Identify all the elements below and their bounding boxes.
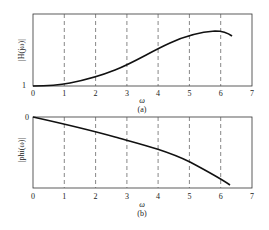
plot-b-curve bbox=[33, 117, 230, 185]
plot-a-xlabel: ω bbox=[139, 96, 145, 105]
plot-a-caption: (a) bbox=[138, 105, 147, 114]
svg-text:0: 0 bbox=[31, 89, 35, 98]
plot-b-gridlines bbox=[64, 117, 220, 188]
svg-text:0: 0 bbox=[31, 192, 35, 201]
svg-text:7: 7 bbox=[250, 89, 254, 98]
svg-text:7: 7 bbox=[250, 192, 254, 201]
plot-a-frame bbox=[33, 14, 252, 86]
plot-b-ylabel: |phi(ω)| bbox=[17, 138, 26, 162]
plot-b: 0 |phi(ω)| 0 1 2 3 4 5 6 7 ω (b) bbox=[17, 113, 254, 218]
svg-text:4: 4 bbox=[156, 89, 160, 98]
plot-a-gridlines bbox=[64, 14, 220, 86]
svg-text:5: 5 bbox=[187, 192, 191, 201]
plot-b-xlabel: ω bbox=[139, 200, 145, 209]
svg-text:1: 1 bbox=[62, 192, 66, 201]
svg-text:6: 6 bbox=[219, 89, 223, 98]
svg-text:3: 3 bbox=[125, 192, 129, 201]
plot-b-y-tick-0: 0 bbox=[25, 113, 29, 122]
plot-a: 1 |H(jω)| 0 1 2 3 4 5 6 7 ω (a) bbox=[17, 14, 254, 114]
svg-text:2: 2 bbox=[94, 192, 98, 201]
svg-text:1: 1 bbox=[62, 89, 66, 98]
plot-a-y-tick-1: 1 bbox=[22, 81, 26, 90]
plot-b-caption: (b) bbox=[137, 209, 147, 218]
svg-text:6: 6 bbox=[219, 192, 223, 201]
svg-text:4: 4 bbox=[156, 192, 160, 201]
svg-text:3: 3 bbox=[125, 89, 129, 98]
chart-canvas: 1 |H(jω)| 0 1 2 3 4 5 6 7 ω (a) 0 |phi(ω… bbox=[0, 0, 269, 230]
plot-a-ylabel: |H(jω)| bbox=[17, 39, 26, 61]
svg-text:2: 2 bbox=[94, 89, 98, 98]
svg-text:5: 5 bbox=[187, 89, 191, 98]
plot-a-curve bbox=[33, 31, 232, 86]
